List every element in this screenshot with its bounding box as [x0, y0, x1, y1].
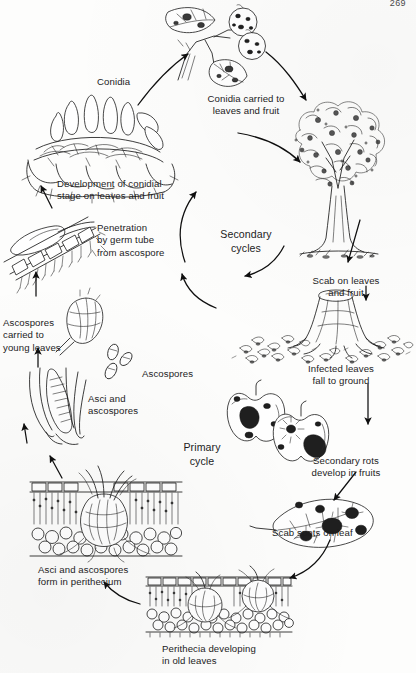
diagram-page: 269: [0, 0, 416, 673]
label-scab-on-leaves-and-fruit: Scab on leaves and fruit: [291, 275, 401, 300]
label-perithecium-formation: Asci and ascospores form in perithecium: [38, 564, 128, 589]
label-scab-spots-on-leaf: Scab spots on leaf: [272, 527, 353, 539]
label-asci-and-ascospores: Asci and ascospores: [88, 393, 138, 418]
rotted-apples-icon: [227, 380, 328, 461]
perithecium-icon: [30, 466, 182, 562]
label-secondary-rots: Secondary rots develop in fruits: [280, 455, 412, 480]
label-conidia: Conidia: [97, 76, 130, 88]
arrow-conidia-to-shoot: [138, 54, 188, 105]
label-secondary-cycles: Secondary cycles: [205, 227, 287, 255]
ascospore-discharge-icon: [56, 288, 103, 355]
scabbed-leaf-icon: [250, 499, 373, 547]
free-ascospores-icon: [103, 343, 135, 381]
label-penetration: Penetration by germ tube from ascospore: [97, 222, 165, 259]
perithecia-leaf-icon: [146, 566, 293, 637]
label-ascospores: Ascospores: [142, 368, 193, 380]
arrow-perithecium-to-asci: [50, 456, 62, 478]
arrow-conidia-carried-to-canopy: [238, 133, 300, 162]
arrow-secondary-cycle-left: [180, 192, 196, 262]
germ-tube-icon: [4, 217, 106, 293]
apple-tree-icon: [295, 102, 385, 259]
arrow-asci-to-ascospores: [24, 424, 27, 443]
arrow-secondary-cycle-lower: [182, 274, 216, 308]
ascus-icon: [30, 368, 86, 445]
label-ascospores-carried: Ascospores carried to young leaves: [3, 317, 61, 354]
label-conidial-stage: Development of conidial stage on leaves …: [57, 178, 164, 203]
infected-shoot-icon: [166, 5, 266, 87]
stump-leaves-icon: [232, 290, 413, 363]
label-perithecia-developing: Perithecia developing in old leaves: [162, 643, 256, 668]
label-primary-cycle: Primary cycle: [165, 440, 239, 468]
label-infected-leaves: Infected leaves fall to ground: [283, 363, 399, 388]
label-conidia-carried: Conidia carried to leaves and fruit: [184, 93, 308, 118]
